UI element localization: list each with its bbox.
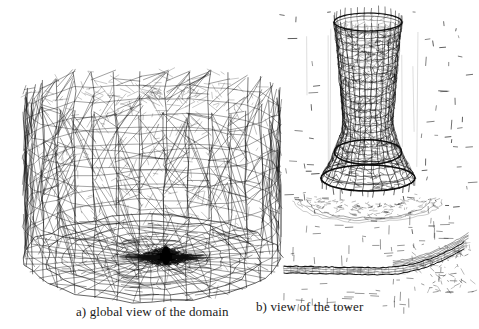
caption-panel-a: a) global view of the domain — [76, 305, 229, 319]
caption-panel-b: b) view of the tower — [256, 300, 363, 314]
tower-mesh-drawing — [270, 0, 479, 300]
domain-mesh-drawing — [0, 0, 300, 300]
panel-global-view-of-the-domain — [0, 0, 300, 300]
figure-container: a) global view of the domain b) view of … — [0, 0, 479, 329]
panel-view-of-the-tower — [270, 0, 479, 300]
